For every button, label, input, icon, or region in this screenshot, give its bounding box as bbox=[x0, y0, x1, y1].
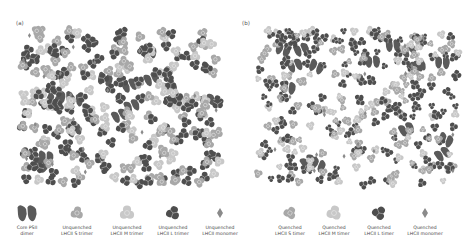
unquenched-monomer-icon bbox=[205, 202, 235, 224]
panel-b-quenched: (b) bbox=[236, 0, 476, 200]
legend-label: QuenchedLHCII M timer bbox=[309, 225, 359, 237]
legend-unquenched-l-trimer: UnquenchedLHCII L trimer bbox=[148, 202, 198, 237]
legend-quenched-s-trimer: QuenchedLHCII S timer bbox=[265, 202, 315, 237]
unquenched-s-trimer-icon bbox=[62, 202, 92, 224]
legend-label: QuenchedLHCII L timer bbox=[354, 225, 404, 237]
legend-label: Core PSIIdimer bbox=[2, 225, 52, 237]
core-psii-dimer-icon bbox=[12, 202, 42, 224]
quenched-membrane-diagram bbox=[236, 0, 476, 200]
legend-quenched-monomer: QuenchedLHCII monomer bbox=[400, 202, 450, 237]
panel-a-unquenched: (a) bbox=[0, 0, 236, 200]
unquenched-m-trimer-icon bbox=[112, 202, 142, 224]
legend-unquenched-m-trimer: UnquenchedLHCII M trimer bbox=[102, 202, 152, 237]
unquenched-l-trimer-icon bbox=[158, 202, 188, 224]
legend-label: QuenchedLHCII monomer bbox=[400, 225, 450, 237]
legend-label: UnquenchedLHCII monomer bbox=[195, 225, 245, 237]
legend-quenched-m-trimer: QuenchedLHCII M timer bbox=[309, 202, 359, 237]
legend: Core PSIIdimer UnquenchedLHCII S trimer … bbox=[0, 200, 476, 249]
legend-unquenched-s-trimer: UnquenchedLHCII S trimer bbox=[52, 202, 102, 237]
quenched-l-trimer-icon bbox=[364, 202, 394, 224]
unquenched-membrane-diagram bbox=[0, 0, 236, 200]
legend-unquenched-monomer: UnquenchedLHCII monomer bbox=[195, 202, 245, 237]
legend-label: UnquenchedLHCII S trimer bbox=[52, 225, 102, 237]
legend-label: UnquenchedLHCII L trimer bbox=[148, 225, 198, 237]
legend-quenched-l-trimer: QuenchedLHCII L timer bbox=[354, 202, 404, 237]
legend-core-psii-dimer: Core PSIIdimer bbox=[2, 202, 52, 237]
quenched-monomer-icon bbox=[410, 202, 440, 224]
quenched-m-trimer-icon bbox=[319, 202, 349, 224]
legend-label: UnquenchedLHCII M trimer bbox=[102, 225, 152, 237]
legend-label: QuenchedLHCII S timer bbox=[265, 225, 315, 237]
quenched-s-trimer-icon bbox=[275, 202, 305, 224]
